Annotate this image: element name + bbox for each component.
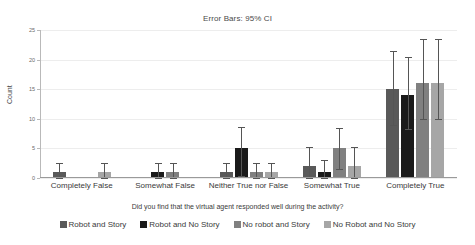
y-tick-label: 20 — [29, 57, 35, 63]
legend-label: No robot and Story — [243, 220, 310, 229]
error-bar-cap — [101, 178, 108, 179]
error-bar-cap — [268, 178, 275, 179]
error-bar — [241, 127, 242, 176]
error-bar-cap — [336, 128, 343, 129]
error-bar-cap — [56, 178, 63, 179]
x-axis-title: Did you find that the virtual agent resp… — [0, 203, 475, 210]
error-bar-cap — [390, 125, 397, 126]
error-bar-cap — [253, 178, 260, 179]
legend-swatch-icon — [140, 221, 147, 228]
gridline — [40, 30, 457, 31]
error-bar — [324, 160, 325, 178]
legend-item[interactable]: Robot and Story — [60, 220, 127, 229]
y-tick-label: 25 — [29, 27, 35, 33]
y-tick-label: 0 — [32, 175, 35, 181]
error-bar-cap — [405, 129, 412, 130]
error-bar — [423, 39, 424, 119]
legend-swatch-icon — [324, 221, 331, 228]
y-tick-label: 5 — [32, 145, 35, 151]
error-bar — [158, 163, 159, 178]
legend: Robot and StoryRobot and No StoryNo robo… — [0, 220, 475, 229]
legend-swatch-icon — [234, 221, 241, 228]
x-tick-label: Completely True — [374, 181, 457, 191]
error-bar-cap — [56, 163, 63, 164]
legend-label: Robot and Story — [69, 220, 127, 229]
chart-title: Error Bars: 95% CI — [0, 14, 475, 23]
y-tick-mark — [37, 178, 40, 179]
y-axis-title: Count — [6, 85, 13, 104]
legend-swatch-icon — [60, 221, 67, 228]
gridline — [40, 60, 457, 61]
plot-area: 0510152025 — [40, 30, 457, 178]
y-tick-label: 10 — [29, 116, 35, 122]
error-bar-cap — [101, 163, 108, 164]
x-tick-label: Completely False — [40, 181, 123, 191]
error-bar-cap — [238, 127, 245, 128]
error-bar-cap — [155, 178, 162, 179]
error-bar-cap — [253, 163, 260, 164]
error-bar — [173, 163, 174, 178]
error-bar — [59, 163, 60, 178]
error-bar — [256, 163, 257, 178]
error-bar-cap — [170, 163, 177, 164]
bar-chart: Error Bars: 95% CI Count 0510152025 Comp… — [0, 0, 475, 245]
error-bar-cap — [155, 163, 162, 164]
error-bar — [104, 163, 105, 178]
error-bar — [309, 147, 310, 178]
error-bar-cap — [321, 178, 328, 179]
error-bar-cap — [321, 160, 328, 161]
error-bar — [226, 163, 227, 178]
error-bar-cap — [420, 119, 427, 120]
error-bar-cap — [306, 147, 313, 148]
error-bar-cap — [405, 57, 412, 58]
error-bar-cap — [351, 178, 358, 179]
error-bar-cap — [223, 163, 230, 164]
error-bar — [438, 39, 439, 119]
error-bar-cap — [351, 147, 358, 148]
error-bar-cap — [306, 178, 313, 179]
error-bar — [271, 163, 272, 178]
x-tick-label: Somewhat True — [290, 181, 373, 191]
error-bar — [354, 147, 355, 178]
error-bar — [393, 51, 394, 125]
x-tick-label: Neither True nor False — [207, 181, 290, 191]
legend-label: Robot and No Story — [149, 220, 219, 229]
error-bar-cap — [336, 169, 343, 170]
x-tick-label: Somewhat False — [123, 181, 206, 191]
legend-item[interactable]: No robot and Story — [234, 220, 310, 229]
error-bar-cap — [268, 163, 275, 164]
legend-label: No Robot and No Story — [333, 220, 416, 229]
error-bar-cap — [435, 119, 442, 120]
error-bar — [408, 57, 409, 129]
legend-item[interactable]: No Robot and No Story — [324, 220, 416, 229]
y-axis-line — [40, 30, 41, 178]
legend-item[interactable]: Robot and No Story — [140, 220, 219, 229]
error-bar-cap — [390, 51, 397, 52]
x-axis-line — [40, 177, 457, 178]
error-bar — [339, 128, 340, 169]
error-bar-cap — [223, 178, 230, 179]
error-bar-cap — [170, 178, 177, 179]
y-tick-label: 15 — [29, 86, 35, 92]
error-bar-cap — [435, 39, 442, 40]
error-bar-cap — [420, 39, 427, 40]
